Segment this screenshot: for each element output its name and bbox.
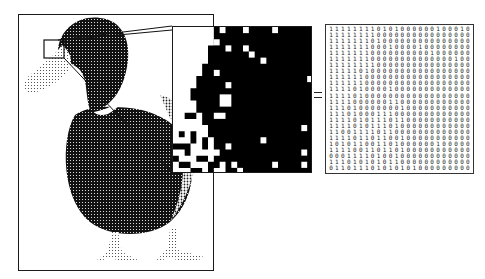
figure: 1111111101010000001000101111111100000000… bbox=[0, 0, 485, 279]
equals-sign bbox=[314, 92, 322, 98]
magnified-pixel-panel bbox=[172, 26, 312, 173]
pixel-grid bbox=[173, 27, 312, 173]
matrix-cell: 0 bbox=[465, 165, 471, 171]
matrix-row: 011011101010101000000000 bbox=[328, 165, 471, 171]
binary-matrix: 1111111101010000001000101111111100000000… bbox=[325, 24, 474, 174]
